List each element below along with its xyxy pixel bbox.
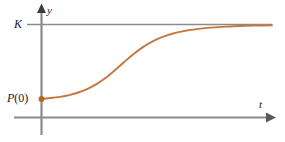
y-axis-label: y — [47, 5, 52, 16]
t-axis-arrowhead — [266, 113, 276, 123]
plot-area — [0, 0, 285, 142]
carrying-capacity-label: K — [14, 18, 22, 30]
initial-population-label: P(0) — [7, 92, 28, 104]
logistic-growth-figure: y t K P(0) — [0, 0, 285, 142]
y-axis-arrowhead — [37, 4, 46, 14]
logistic-curve — [42, 25, 273, 99]
initial-value-point — [39, 96, 45, 102]
initial-population-argument: (0) — [14, 91, 28, 105]
t-axis-label: t — [259, 99, 262, 110]
